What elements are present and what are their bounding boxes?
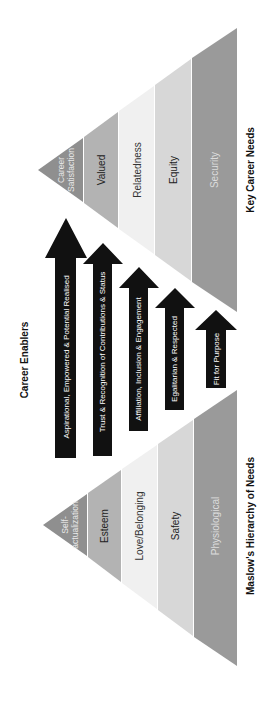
valued-label: Valued	[96, 155, 107, 185]
svg-text:Trust & Recognition of Contrib: Trust & Recognition of Contributions & S…	[98, 272, 107, 433]
career-satisfaction-label: CareerSatisfaction	[56, 148, 76, 192]
equity-label: Equity	[168, 156, 179, 184]
enabler-arrow-aspirational: Aspirational, Empowered & Potential Real…	[45, 218, 87, 458]
enabler-arrow-egalitarian: Egalitarian & Respected	[155, 288, 195, 410]
love-belonging-label: Love/Belonging	[134, 492, 145, 561]
physiological-label: Physiological	[210, 497, 221, 555]
key-career-needs-title: Key Career Needs	[245, 127, 256, 213]
esteem-label: Esteem	[99, 509, 110, 543]
career-enablers-title: Career Enablers	[19, 321, 30, 398]
maslow-title: Maslow's Hierarchy of Needs	[245, 457, 256, 595]
security-label: Security	[209, 152, 220, 188]
svg-text:Affiliation, Inclusion & Engag: Affiliation, Inclusion & Engagement	[134, 296, 143, 420]
enabler-arrow-affiliation: Affiliation, Inclusion & Engagement	[119, 267, 159, 431]
svg-text:Fit for Purpose: Fit for Purpose	[212, 332, 221, 385]
enabler-arrow-fit-for-purpose: Fit for Purpose	[195, 310, 237, 388]
svg-text:Egalitarian & Respected: Egalitarian & Respected	[170, 316, 179, 402]
relatedness-label: Relatedness	[132, 142, 143, 198]
career-needs-diagram: CareerSatisfaction Valued Relatedness Eq…	[0, 0, 260, 703]
self-actualization-label: Self-actualization	[60, 501, 80, 549]
svg-text:Aspirational, Empowered & Pote: Aspirational, Empowered & Potential Real…	[62, 275, 71, 438]
enabler-arrow-trust: Trust & Recognition of Contributions & S…	[83, 243, 123, 456]
safety-label: Safety	[170, 512, 181, 540]
